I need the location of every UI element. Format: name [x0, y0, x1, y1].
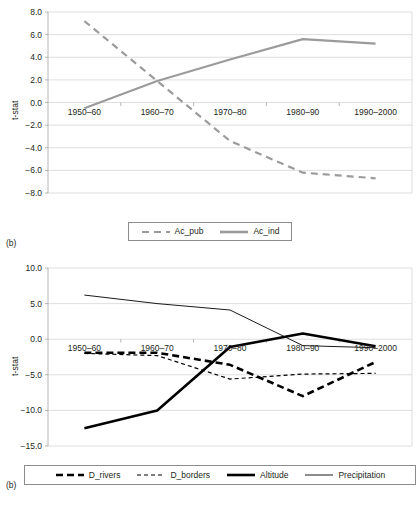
x-tick-label: 1980–90 [286, 107, 319, 117]
legend-label: D_rivers [89, 471, 121, 480]
x-tick-label: 1980–90 [286, 343, 319, 353]
legend-swatch-icon [55, 470, 85, 480]
series-line-ac_pub [84, 21, 375, 178]
y-axis-label-bottom: t-stat [10, 357, 20, 377]
legend-swatch-icon [136, 470, 166, 480]
legend-label: Precipitation [338, 471, 385, 480]
legend-swatch-icon [304, 470, 334, 480]
panel-tag-bottom: (b) [6, 480, 16, 490]
legend-swatch-icon [219, 227, 249, 237]
x-tick-label: 1970–80 [213, 343, 246, 353]
y-tick-label: 5.0 [30, 299, 42, 309]
x-tick-label: 1950–60 [68, 343, 101, 353]
y-tick-label: −6.0 [25, 165, 42, 175]
y-tick-label: 4.0 [30, 52, 42, 62]
y-tick-label: 0.0 [30, 98, 42, 108]
x-tick-label: 1970–80 [213, 107, 246, 117]
legend-item-ac_ind: Ac_ind [211, 227, 287, 237]
y-tick-label: 0.0 [30, 334, 42, 344]
line-chart-bottom: 10.05.00.0−5.0−10.0−15.01950–601960–7019… [0, 258, 420, 464]
legend-item-precipitation: Precipitation [296, 470, 393, 480]
legend-label: Ac_pub [175, 227, 204, 236]
x-tick-label: 1990–2000 [354, 343, 397, 353]
panel-tag-top: (b) [6, 238, 16, 248]
y-tick-label: −8.0 [25, 188, 42, 198]
legend-swatch-icon [226, 470, 256, 480]
legend-swatch-icon [141, 227, 171, 237]
x-tick-label: 1960–70 [141, 343, 174, 353]
legend-item-d_borders: D_borders [128, 470, 218, 480]
series-line-ac_ind [84, 39, 375, 108]
legend-label: D_borders [170, 471, 210, 480]
x-tick-label: 1990–2000 [354, 107, 397, 117]
chart-legend-bottom: D_riversD_bordersAltitudePrecipitation [24, 465, 416, 485]
y-tick-label: −10.0 [20, 405, 42, 415]
y-tick-label: −5.0 [25, 370, 42, 380]
legend-label: Altitude [260, 471, 288, 480]
y-tick-label: 8.0 [30, 7, 42, 17]
x-tick-label: 1960–70 [141, 107, 174, 117]
y-tick-label: −4.0 [25, 143, 42, 153]
y-tick-label: −2.0 [25, 120, 42, 130]
chart-panel-top: t-stat 8.06.04.02.00.0−2.0−4.0−6.0−8.019… [0, 0, 420, 250]
series-line-d_borders [84, 353, 375, 379]
legend-label: Ac_ind [253, 227, 279, 236]
x-tick-label: 1950–60 [68, 107, 101, 117]
chart-legend-top: Ac_pubAc_ind [128, 222, 292, 241]
figure-root: t-stat 8.06.04.02.00.0−2.0−4.0−6.0−8.019… [0, 0, 420, 508]
chart-panel-bottom: t-stat 10.05.00.0−5.0−10.0−15.01950–6019… [0, 258, 420, 508]
y-axis-label-top: t-stat [10, 101, 20, 121]
legend-item-ac_pub: Ac_pub [133, 227, 212, 237]
line-chart-top: 8.06.04.02.00.0−2.0−4.0−6.0−8.01950–6019… [0, 0, 420, 215]
y-tick-label: 10.0 [25, 263, 42, 273]
legend-item-altitude: Altitude [218, 470, 296, 480]
y-tick-label: 2.0 [30, 75, 42, 85]
legend-item-d_rivers: D_rivers [47, 470, 129, 480]
y-tick-label: 6.0 [30, 30, 42, 40]
y-tick-label: −15.0 [20, 441, 42, 451]
